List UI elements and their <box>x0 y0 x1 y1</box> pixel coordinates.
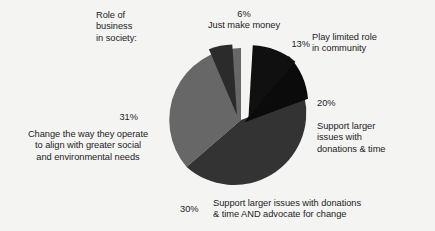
slice-text-support-advocate: Support larger issues with donations & t… <box>213 198 428 221</box>
slice-percent-support-advocate: 30% <box>180 204 208 215</box>
slice-text-change-way: Change the way they operate to align wit… <box>5 129 171 163</box>
slice-callout-just-make-money: 6%Just make money <box>176 9 312 32</box>
pie-chart: Role of business in society: 6%Just make… <box>0 0 435 231</box>
slice-text-play-limited-role: Play limited role in community <box>312 32 434 55</box>
chart-title: Role of business in society: <box>96 10 188 44</box>
slice-text-just-make-money: Just make money <box>208 20 280 30</box>
slice-percent-support-donations: 20% <box>317 98 357 109</box>
slice-percent-play-limited-role: 13% <box>284 39 310 50</box>
slice-percent-just-make-money: 6% <box>237 9 250 19</box>
slice-text-support-donations: Support larger issues with donations & t… <box>317 121 433 155</box>
slice-percent-change-way: 31% <box>84 112 138 123</box>
